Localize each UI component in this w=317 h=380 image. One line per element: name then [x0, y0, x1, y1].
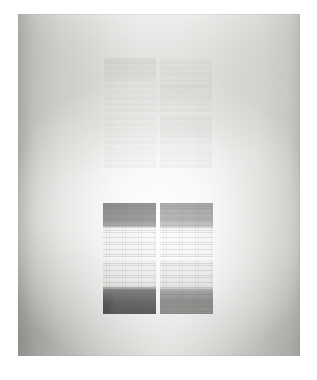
grid-block-lower	[103, 203, 213, 314]
artwork-caption	[0, 0, 1, 1]
grid-cell-upper-top-left	[104, 58, 156, 112]
grid-cell-upper-top-right	[160, 58, 212, 112]
grid-cell-lower-top-right	[160, 203, 213, 257]
grid-cell-upper-bottom-right	[160, 115, 212, 169]
grid-cell-lower-top-left	[103, 203, 156, 257]
grid-cell-lower-bottom-left	[103, 260, 156, 314]
grid-cell-lower-bottom-right	[160, 260, 213, 314]
graphite-smudge	[103, 293, 115, 314]
artwork-frame	[0, 0, 317, 380]
grid-cell-upper-bottom-left	[104, 115, 156, 169]
grid-block-upper	[104, 58, 212, 168]
painting-panel	[18, 14, 300, 356]
